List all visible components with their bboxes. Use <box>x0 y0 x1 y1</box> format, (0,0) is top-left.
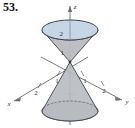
z-tick-label-2: 2 <box>60 30 64 38</box>
y-tick-label-2: 2 <box>102 87 106 95</box>
y-axis-arrowhead <box>115 97 122 101</box>
lower-cone-body <box>42 62 98 121</box>
y-tick-1 <box>81 71 84 76</box>
x-tick-label-1: 1 <box>55 77 59 85</box>
double-cone-figure: 2 1 1 2 1 2 x y z <box>0 0 135 128</box>
x-axis-label: x <box>6 100 11 108</box>
z-tick-label-1: 1 <box>61 49 65 57</box>
lower-cone <box>42 62 98 121</box>
y-axis-label: y <box>124 98 129 106</box>
z-axis-label: z <box>73 3 77 11</box>
z-axis-arrowhead <box>68 6 72 12</box>
x-axis-arrowhead <box>14 98 21 102</box>
figure-page: 53. <box>0 0 135 128</box>
x-tick-label-2: 2 <box>34 89 38 97</box>
y-tick-2 <box>101 81 104 86</box>
origin-vertex-point <box>69 61 72 64</box>
upper-cone <box>42 20 98 62</box>
y-tick-label-1: 1 <box>83 77 87 85</box>
